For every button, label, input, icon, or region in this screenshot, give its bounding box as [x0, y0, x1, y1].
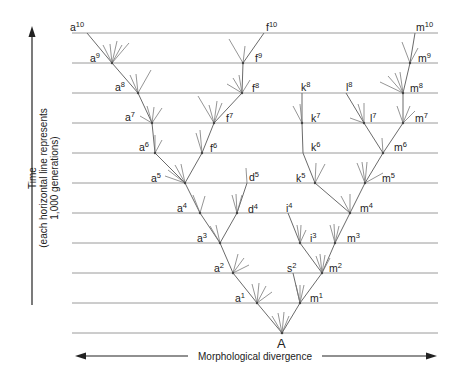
- phylogenetic-divergence-diagram: a10 a9 a8 a7 a6 a5 a4 a3 a2 a1 d4 d5 f6 …: [0, 0, 457, 382]
- divergence-axis-label: Morphological divergence: [198, 351, 312, 362]
- time-axis-sublabel-2: 1,000 generations): [49, 136, 60, 219]
- label-a2: a2: [214, 261, 224, 274]
- time-axis-label: Time: [27, 167, 38, 189]
- label-m9: m9: [418, 51, 431, 64]
- label-a7: a7: [125, 110, 135, 123]
- label-a8: a8: [115, 80, 125, 93]
- label-a9: a9: [90, 51, 100, 64]
- label-a1: a1: [235, 291, 245, 304]
- divergence-axis: Morphological divergence: [75, 351, 437, 362]
- label-m7: m7: [415, 111, 428, 124]
- label-i4: i4: [286, 201, 293, 214]
- label-k5: k5: [296, 171, 305, 184]
- label-m8: m8: [410, 81, 423, 94]
- arrow-up-icon: [29, 26, 36, 37]
- label-f10: f10: [266, 20, 277, 33]
- label-a4: a4: [177, 201, 187, 214]
- label-a10: a10: [70, 20, 84, 33]
- label-m10: m10: [416, 20, 433, 33]
- label-m2: m2: [329, 261, 342, 274]
- label-f6: f6: [210, 141, 217, 154]
- arrow-left-icon: [75, 353, 86, 360]
- extinct-variant-twigs: [103, 39, 418, 333]
- label-l7: l7: [370, 111, 377, 124]
- label-a3: a3: [197, 231, 207, 244]
- node-labels: a10 a9 a8 a7 a6 a5 a4 a3 a2 a1 d4 d5 f6 …: [70, 20, 433, 351]
- label-a5: a5: [151, 171, 161, 184]
- label-a6: a6: [139, 140, 149, 153]
- time-axis: Time (each horizontal line represents 1,…: [27, 26, 60, 305]
- label-m5: m5: [382, 171, 395, 184]
- label-f8: f8: [252, 81, 259, 94]
- time-axis-sublabel-1: (each horizontal line represents: [38, 108, 49, 248]
- label-i3: i3: [310, 231, 317, 244]
- label-k6: k6: [311, 140, 320, 153]
- arrow-right-icon: [426, 353, 437, 360]
- label-root-A: A: [277, 336, 286, 351]
- label-f9: f9: [255, 51, 262, 64]
- label-k8: k8: [301, 80, 310, 93]
- label-f7: f7: [226, 111, 233, 124]
- label-m3: m3: [347, 231, 360, 244]
- label-s2: s2: [287, 261, 296, 274]
- label-m6: m6: [394, 140, 407, 153]
- label-m1: m1: [310, 291, 323, 304]
- label-d5: d5: [249, 170, 259, 183]
- branch-nodes: [111, 62, 411, 335]
- label-l8: l8: [346, 80, 353, 93]
- label-k7: k7: [311, 111, 320, 124]
- label-m4: m4: [360, 201, 373, 214]
